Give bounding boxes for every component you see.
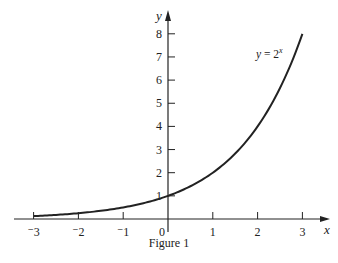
y-axis-label: y bbox=[154, 8, 162, 23]
y-tick-label: 1 bbox=[156, 189, 162, 203]
y-tick-label: 8 bbox=[156, 27, 162, 41]
figure-caption: Figure 1 bbox=[0, 236, 338, 251]
y-axis-arrow-icon bbox=[165, 10, 171, 21]
y-tick-label: 6 bbox=[156, 73, 162, 87]
y-tick-label: 7 bbox=[156, 50, 162, 64]
y-tick-label: 4 bbox=[156, 119, 162, 133]
exponential-chart: xy ⁻3⁻2⁻1012312345678 y = 2x bbox=[0, 0, 338, 263]
y-tick-label: 5 bbox=[156, 96, 162, 110]
axes: xy bbox=[14, 8, 330, 237]
y-tick-label: 3 bbox=[156, 143, 162, 157]
x-axis-label: x bbox=[323, 222, 330, 237]
y-tick-label: 2 bbox=[156, 166, 162, 180]
curve-label: y = 2x bbox=[255, 46, 283, 61]
